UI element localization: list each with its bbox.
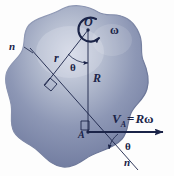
radius-r-label: r [54, 52, 59, 64]
normal-line-bottom-label: n [124, 157, 130, 168]
velocity-value-r: R [135, 111, 144, 126]
velocity-symbol: V [112, 111, 121, 126]
velocity-value-omega: ω [144, 111, 154, 126]
rigid-body-diagram: O ω r θ R n n A θ VA=Rω [0, 0, 174, 176]
radius-R-label: R [93, 72, 101, 84]
theta-top-label: θ [70, 62, 76, 73]
normal-line-left-label: n [9, 41, 15, 52]
point-a-label: A [78, 130, 85, 140]
theta-bottom-label: θ [125, 141, 131, 152]
velocity-equation-label: VA=Rω [112, 112, 154, 129]
angular-velocity-label: ω [110, 24, 119, 36]
point-o-label: O [84, 16, 93, 28]
